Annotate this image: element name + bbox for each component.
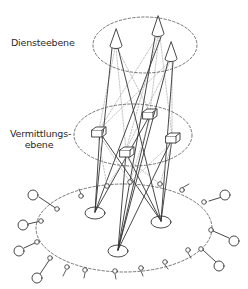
- service-node-3: [165, 42, 177, 62]
- service-node-1: [110, 29, 122, 49]
- service-to-access-lines: [95, 37, 173, 250]
- switch-node-1: [92, 127, 106, 137]
- network-diagram: [0, 0, 248, 289]
- switch-node-3: [166, 133, 180, 143]
- switch-node-2: [143, 109, 157, 119]
- service-layer-ellipse: [93, 17, 197, 73]
- switch-node-4: [120, 147, 134, 157]
- service-node-2: [152, 16, 164, 37]
- ring-nodes: [35, 180, 214, 279]
- service-to-switch-dotted: [99, 37, 172, 150]
